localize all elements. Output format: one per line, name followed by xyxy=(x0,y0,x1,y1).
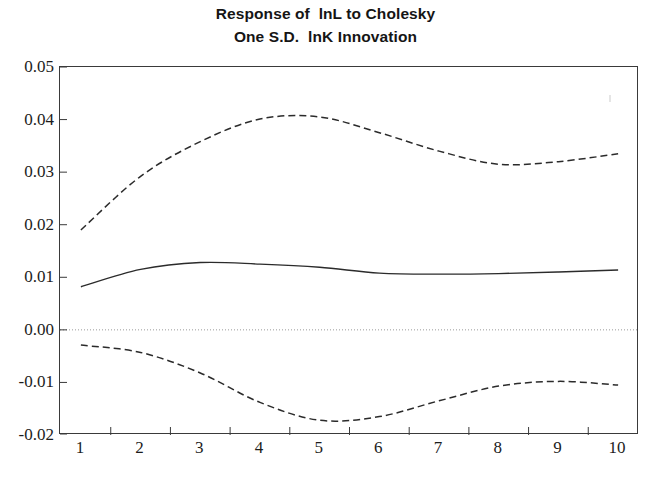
y-tick-label: 0.01 xyxy=(2,268,54,285)
impulse-response-chart: Response of lnL to Cholesky One S.D. lnK… xyxy=(0,0,651,496)
series-line-1 xyxy=(81,262,618,286)
y-tick-label: 0.04 xyxy=(2,111,54,128)
y-tick-label: 0.03 xyxy=(2,163,54,180)
y-axis: 0.050.040.030.020.010.00-0.01-0.02 xyxy=(0,66,54,434)
chart-title-line-1: Response of lnL to Cholesky xyxy=(0,2,651,25)
scan-speck xyxy=(609,95,611,102)
plot-svg xyxy=(60,67,639,435)
y-tick-label: 0.02 xyxy=(2,216,54,233)
x-tick-label: 2 xyxy=(120,438,160,457)
y-tick-label: 0.05 xyxy=(2,58,54,75)
x-tick-label: 8 xyxy=(478,438,518,457)
y-tick-label: -0.01 xyxy=(2,373,54,390)
series-line-3 xyxy=(81,345,618,421)
x-tick-label: 5 xyxy=(299,438,339,457)
chart-title-line-2: One S.D. lnK Innovation xyxy=(0,25,651,48)
x-tick-label: 10 xyxy=(597,438,637,457)
x-tick-label: 3 xyxy=(179,438,219,457)
y-tick-label: -0.02 xyxy=(2,426,54,443)
x-tick-label: 9 xyxy=(537,438,577,457)
x-tick-label: 4 xyxy=(239,438,279,457)
x-tick-label: 1 xyxy=(60,438,100,457)
plot-area xyxy=(59,66,638,434)
series-line-2 xyxy=(81,116,618,230)
x-tick-label: 6 xyxy=(358,438,398,457)
chart-title: Response of lnL to Cholesky One S.D. lnK… xyxy=(0,2,651,48)
x-axis: 12345678910 xyxy=(59,438,638,466)
x-tick-label: 7 xyxy=(418,438,458,457)
y-tick-label: 0.00 xyxy=(2,321,54,338)
